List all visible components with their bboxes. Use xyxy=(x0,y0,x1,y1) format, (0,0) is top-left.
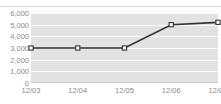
y-axis-tick-label: 1,000 xyxy=(10,67,29,76)
y-axis-labels: 01,0002,0003,0004,0005,0006,000 xyxy=(0,13,29,83)
title-divider xyxy=(0,6,221,7)
y-axis-tick-label: 3,000 xyxy=(10,44,29,53)
y-axis-tick-label: 2,000 xyxy=(10,55,29,64)
x-axis-tick-label: 12/05 xyxy=(115,86,134,95)
x-axis-tick-label: 12/03 xyxy=(22,86,41,95)
data-point-marker xyxy=(216,20,220,24)
data-point-marker xyxy=(122,46,126,50)
data-point-marker xyxy=(169,23,173,27)
y-axis-tick-label: 5,000 xyxy=(10,20,29,29)
data-point-marker xyxy=(29,46,33,50)
x-axis-tick-label: 12/06 xyxy=(162,86,181,95)
series-line xyxy=(31,22,218,48)
x-axis-labels: 12/0312/0412/0512/0612/07 xyxy=(31,86,218,100)
y-axis-tick-label: 6,000 xyxy=(10,9,29,18)
chart-screenshot: 01,0002,0003,0004,0005,0006,000 12/0312/… xyxy=(0,0,221,104)
x-axis-tick-label: 12/07 xyxy=(209,86,221,95)
line-series xyxy=(31,13,218,83)
x-axis-tick-label: 12/04 xyxy=(68,86,87,95)
y-axis-tick-label: 4,000 xyxy=(10,32,29,41)
data-point-marker xyxy=(76,46,80,50)
